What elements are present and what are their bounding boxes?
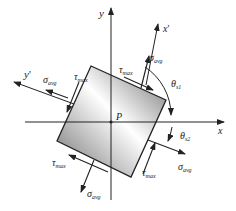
sigma-avg-arrow-yprime: [46, 90, 68, 98]
y-prime-label: y': [23, 68, 31, 80]
theta-s1-label: θs1: [171, 78, 181, 90]
origin-point: [109, 120, 112, 123]
tau-max-label-bottom: τmax: [52, 157, 66, 169]
x-prime-label: x': [162, 23, 169, 34]
y-prime-axis: [14, 82, 74, 104]
tau-max-label-top: τmax: [119, 64, 133, 76]
sigma-avg-label-yprime: σavg: [43, 74, 57, 86]
sigma-avg-arrow-xprime: [141, 56, 149, 88]
sigma-avg-label-right: σavg: [178, 161, 192, 173]
sigma-avg-label-bottom: σavg: [87, 188, 101, 200]
stress-element-diagram: y x x' y' P σavg σavg σavg σavg τmax τma…: [0, 0, 236, 211]
theta-s2-arc: [168, 127, 172, 141]
sigma-avg-label-xprime: σavg: [149, 52, 163, 64]
origin-label: P: [115, 111, 122, 122]
tau-max-label-right: τmax: [142, 167, 156, 179]
x-axis-label: x: [217, 125, 223, 136]
y-axis-label: y: [98, 7, 104, 19]
tau-max-label-left: τmax: [74, 71, 88, 83]
theta-s2-label: θs2: [180, 130, 190, 142]
